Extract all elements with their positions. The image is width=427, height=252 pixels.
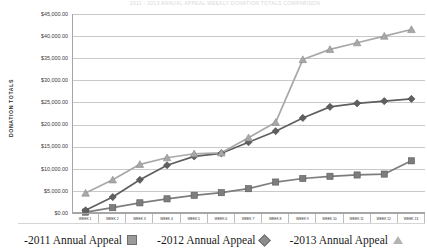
x-axis-category-label: WEEK 10 xyxy=(316,214,343,223)
legend-item[interactable]: -2012 Annual Appeal xyxy=(157,234,269,246)
y-axis-tick-label: $10,000.00 xyxy=(0,166,68,172)
y-axis-tick-label: $25,000.00 xyxy=(0,99,68,105)
gridline xyxy=(73,169,425,170)
chart-container: 2011 - 2013 ANNUAL APPEAL WEEKLY DONATIO… xyxy=(0,0,427,252)
x-axis-category-label: WEEK 7 xyxy=(235,214,262,223)
x-axis-category-label: WEEK 8 xyxy=(262,214,289,223)
x-axis-category-label: WEEK 2 xyxy=(99,214,126,223)
diamond-marker xyxy=(259,234,272,247)
gridline xyxy=(73,147,425,148)
triangle-marker xyxy=(393,236,403,244)
gridline xyxy=(73,80,425,81)
square-marker xyxy=(127,235,137,245)
x-axis-category-label: WEEK 1 xyxy=(72,214,99,223)
gridline xyxy=(73,14,425,15)
plot-area xyxy=(72,14,425,213)
y-axis-tick-label: $40,000.00 xyxy=(0,33,68,39)
y-axis-tick-label: $5,000.00 xyxy=(0,188,68,194)
x-axis-category-label: WEEK 4 xyxy=(153,214,180,223)
y-axis-tick-label: $20,000.00 xyxy=(0,121,68,127)
y-axis-tick-label: $35,000.00 xyxy=(0,55,68,61)
gridline xyxy=(73,125,425,126)
legend-item[interactable]: -2011 Annual Appeal xyxy=(24,234,137,246)
legend-label: -2013 Annual Appeal xyxy=(290,234,388,246)
y-axis-tick-label: $45,000.00 xyxy=(0,11,68,17)
x-axis-category-label: WEEK 9 xyxy=(289,214,316,223)
x-axis-category-label: WEEK 5 xyxy=(181,214,208,223)
gridline xyxy=(73,36,425,37)
chart-title: 2011 - 2013 ANNUAL APPEAL WEEKLY DONATIO… xyxy=(105,0,345,7)
x-axis-category-label: WEEK 13 xyxy=(398,214,425,223)
legend-item[interactable]: -2013 Annual Appeal xyxy=(290,234,403,246)
x-axis-category-label: WEEK 11 xyxy=(344,214,371,223)
legend-label: -2011 Annual Appeal xyxy=(24,234,122,246)
x-axis-category-label: WEEK 3 xyxy=(126,214,153,223)
gridline xyxy=(73,191,425,192)
gridline xyxy=(73,58,425,59)
y-axis-tick-label: $30,000.00 xyxy=(0,77,68,83)
x-axis-category-labels: WEEK 1WEEK 2WEEK 3WEEK 4WEEK 5WEEK 6WEEK… xyxy=(72,213,425,223)
x-axis-category-label: WEEK 6 xyxy=(208,214,235,223)
legend-label: -2012 Annual Appeal xyxy=(157,234,255,246)
y-axis-tick-label: $15,000.00 xyxy=(0,143,68,149)
gridline xyxy=(73,102,425,103)
x-axis-category-label: WEEK 12 xyxy=(371,214,398,223)
y-axis-tick-label: $0.00 xyxy=(0,210,68,216)
axis-base-rule xyxy=(18,223,425,224)
chart-legend: -2011 Annual Appeal-2012 Annual Appeal-2… xyxy=(0,228,427,252)
